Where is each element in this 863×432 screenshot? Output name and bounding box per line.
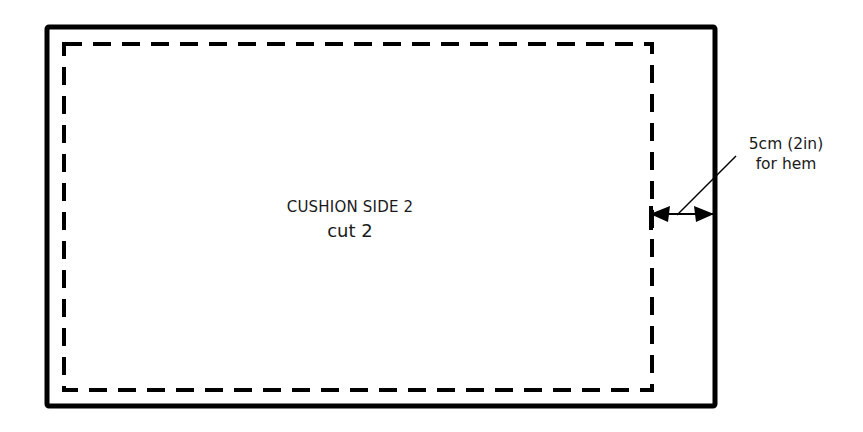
outer-cut-outline (47, 27, 715, 406)
hem-annotation: 5cm (2in) for hem (726, 134, 846, 174)
pattern-diagram (0, 0, 863, 432)
inner-stitch-outline (64, 44, 652, 390)
piece-name-label: CUSHION SIDE 2 (220, 198, 480, 216)
cut-instruction-label: cut 2 (220, 220, 480, 241)
hem-measurement-text: 5cm (2in) (726, 134, 846, 154)
hem-purpose-text: for hem (726, 154, 846, 174)
arrowhead-right-icon (694, 206, 714, 222)
